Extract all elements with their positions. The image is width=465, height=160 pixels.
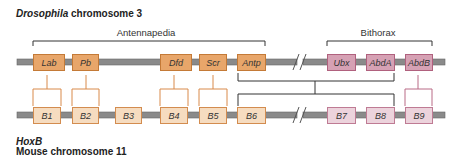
gene-label: B2	[80, 111, 91, 121]
gene-lab: Lab	[33, 54, 65, 71]
gene-label: B3	[123, 111, 134, 121]
connector-lab-b1	[33, 75, 61, 106]
gene-scr: Scr	[199, 54, 227, 71]
gene-label: B4	[168, 111, 179, 121]
gene-antp: Antp	[237, 54, 266, 71]
connector-dfd-b4	[160, 75, 188, 106]
gene-b4: B4	[160, 107, 188, 124]
antennapedia-bracket	[33, 41, 265, 46]
gene-dfd: Dfd	[160, 54, 192, 71]
mouse-chromosome-label: Mouse chromosome 11	[16, 146, 127, 157]
gene-label: B9	[413, 111, 424, 121]
gene-b6: B6	[237, 107, 266, 124]
gene-b8: B8	[366, 107, 395, 124]
gene-b1: B1	[33, 107, 61, 124]
connector-scr-b5	[199, 75, 227, 106]
gene-label: B5	[207, 111, 218, 121]
gene-label: B7	[336, 111, 347, 121]
connector-abdb-b9	[405, 75, 432, 106]
gene-label: Pb	[80, 58, 91, 68]
gene-label: B6	[246, 111, 257, 121]
gene-abdb: AbdB	[405, 54, 433, 71]
gene-label: Dfd	[169, 58, 183, 68]
gene-ubx: Ubx	[327, 54, 356, 71]
gene-b2: B2	[72, 107, 99, 124]
gene-b3: B3	[115, 107, 142, 124]
gene-label: Lab	[41, 58, 56, 68]
gene-label: Scr	[206, 58, 220, 68]
connector-antp-abda	[238, 73, 394, 81]
gene-b5: B5	[199, 107, 227, 124]
gene-pb: Pb	[72, 54, 99, 71]
gene-b9: B9	[405, 107, 433, 124]
gene-b7: B7	[327, 107, 356, 124]
gene-label: Ubx	[333, 58, 349, 68]
hoxb-title: HoxB Mouse chromosome 11	[16, 137, 127, 157]
gene-label: Antp	[242, 58, 261, 68]
gene-abda: AbdA	[366, 54, 395, 71]
bithorax-bracket	[327, 41, 432, 46]
gene-label: B1	[41, 111, 52, 121]
gene-label: AbdB	[408, 58, 430, 68]
gene-label: B8	[375, 111, 386, 121]
gene-label: AbdA	[369, 58, 391, 68]
diagram-lines	[0, 0, 465, 160]
connector-b6-b8	[238, 94, 394, 106]
connector-pb-b2	[72, 75, 99, 106]
